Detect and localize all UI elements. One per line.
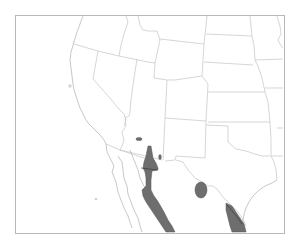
gulf-coastline [243,180,277,232]
ut-wy-border [154,31,175,80]
state-borders [69,16,283,232]
range-big-bend-patch [195,182,207,198]
ok-panhandle [206,125,270,156]
az-nm-border [163,118,165,160]
island [95,198,97,200]
range-areas [136,138,246,233]
nm-tx-border [165,121,206,161]
map-canvas [0,0,298,249]
nd-mn-border [250,16,258,66]
baja-coast [106,144,132,228]
mn-ia-border [255,59,283,60]
wi-border [277,16,283,48]
ca-nv-border [93,51,126,126]
missouri-river [258,66,270,122]
range-central-arizona-patch [136,138,142,141]
or-id-border [119,16,128,56]
range-map [0,0,298,249]
mt-dakotas-border [204,16,207,44]
sf-bay [69,85,71,87]
idaho-west-border [138,16,157,31]
wyoming-border [160,39,204,80]
tx-ar-la-border [270,122,277,180]
colorado-border [165,76,208,121]
nv-ut-border [129,59,137,116]
baja-gulf-coast [118,156,142,232]
nd-sd-border [206,34,252,36]
sd-ne-border [204,62,253,65]
pacific-coastline [70,16,106,144]
or-ca-nv-border [74,44,155,63]
range-se-arizona-nm-patch [159,155,162,160]
